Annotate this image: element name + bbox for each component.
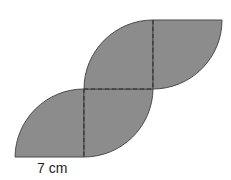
s-shape-figure bbox=[0, 0, 231, 180]
quarter-circle-top-left bbox=[84, 20, 153, 89]
quarter-circle-bottom-right bbox=[84, 89, 153, 157]
quarter-circle-top-right bbox=[153, 20, 222, 89]
quarter-circle-bottom-left bbox=[15, 89, 84, 157]
dimension-label: 7 cm bbox=[37, 160, 67, 176]
